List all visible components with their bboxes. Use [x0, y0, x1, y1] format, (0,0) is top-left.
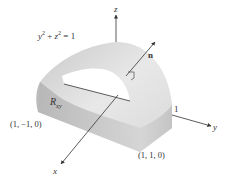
point-label-1-neg1-0: (1, −1, 0) [10, 119, 42, 129]
y-tick-label: 1 [174, 104, 179, 114]
x-axis-label: x [52, 166, 57, 176]
point-label-1-1-0: (1, 1, 0) [138, 150, 165, 160]
equation-label: y2 + z2 = 1 [37, 30, 75, 41]
y-axis-label: y [212, 122, 217, 132]
half-cylinder-diagram: z x y 1 n y2 + z2 = 1 Rxy (1, −1, 0) (1,… [0, 0, 230, 177]
normal-vector-label: n [148, 50, 153, 60]
y-axis [172, 115, 211, 126]
z-axis-label: z [113, 4, 118, 14]
